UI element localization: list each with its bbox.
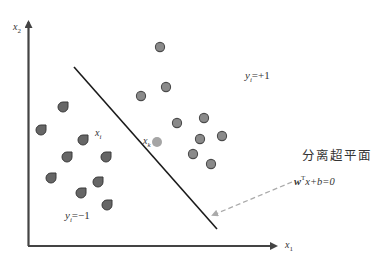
hyperplane-equation: wTx+b=0 [294, 175, 335, 187]
positive-class-points [136, 42, 226, 168]
positive-point [172, 118, 181, 127]
positive-point [155, 42, 164, 51]
y-axis-label: x2 [13, 22, 21, 35]
negative-point [62, 152, 72, 162]
negative-class-points [36, 102, 112, 210]
hyperplane-pointer-arrow [213, 182, 292, 215]
negative-point [101, 152, 111, 162]
negative-point [102, 200, 112, 210]
positive-point [217, 131, 226, 140]
highlight-point [152, 137, 162, 147]
highlighted-point-xk [152, 137, 162, 147]
hyperplane-title: 分离超平面 [302, 150, 372, 163]
positive-point [195, 134, 204, 143]
negative-point [93, 177, 103, 187]
point-label-xi: xi [95, 128, 101, 141]
negative-point [36, 125, 46, 135]
positive-point [188, 149, 197, 158]
positive-point [136, 91, 145, 100]
x-axis-label: x1 [285, 240, 293, 253]
positive-class-label: yi=+1 [245, 70, 270, 84]
positive-point [161, 82, 170, 91]
negative-point [76, 188, 86, 198]
negative-point [46, 173, 56, 183]
point-label-xk: xk [143, 136, 151, 149]
negative-class-label: yi=−1 [65, 210, 90, 224]
negative-point [58, 102, 68, 112]
positive-point [206, 159, 215, 168]
positive-point [199, 113, 208, 122]
negative-point [78, 135, 88, 145]
